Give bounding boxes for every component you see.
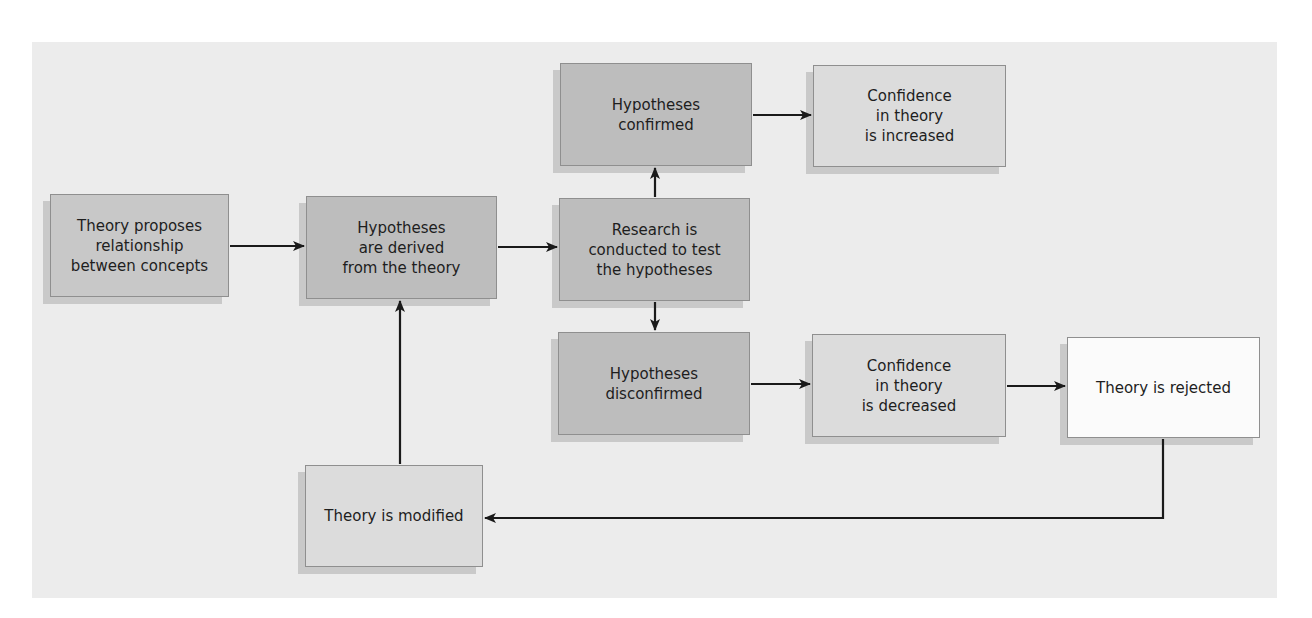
node-line: Theory is modified [324, 506, 463, 526]
node-line: confirmed [612, 115, 700, 135]
node-line: Theory is rejected [1096, 378, 1231, 398]
node-line: Hypotheses [343, 218, 461, 238]
node-line: between concepts [71, 256, 208, 276]
node-line: in theory [865, 106, 955, 126]
node-theory-rejected: Theory is rejected [1067, 337, 1260, 438]
node-line: Confidence [862, 356, 957, 376]
node-hypotheses-derived: Hypotheses are derived from the theory [306, 196, 497, 299]
node-line: Confidence [865, 86, 955, 106]
node-line: relationship [71, 236, 208, 256]
node-line: is increased [865, 126, 955, 146]
node-theory-modified: Theory is modified [305, 465, 483, 567]
node-line: Theory proposes [71, 216, 208, 236]
node-line: from the theory [343, 258, 461, 278]
node-line: disconfirmed [605, 384, 702, 404]
node-hypotheses-disconfirmed: Hypotheses disconfirmed [558, 332, 750, 435]
node-theory-proposes: Theory proposes relationship between con… [50, 194, 229, 297]
node-research-conducted: Research is conducted to test the hypoth… [559, 198, 750, 301]
node-line: in theory [862, 376, 957, 396]
node-confidence-decreased: Confidence in theory is decreased [812, 334, 1006, 437]
node-line: is decreased [862, 396, 957, 416]
node-line: Hypotheses [612, 95, 700, 115]
node-line: Research is [588, 220, 720, 240]
node-hypotheses-confirmed: Hypotheses confirmed [560, 63, 752, 166]
node-confidence-increased: Confidence in theory is increased [813, 65, 1006, 167]
node-line: the hypotheses [588, 260, 720, 280]
node-line: are derived [343, 238, 461, 258]
node-line: Hypotheses [605, 364, 702, 384]
node-line: conducted to test [588, 240, 720, 260]
